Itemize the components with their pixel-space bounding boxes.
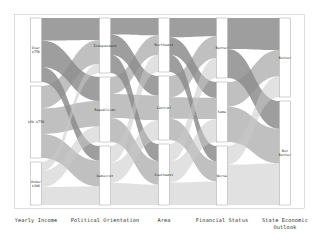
- flow-ribbon: [111, 183, 159, 205]
- category-node-label: $75K: [32, 50, 40, 54]
- category-node-label: Democrat: [97, 174, 114, 178]
- axis-label: Yearly Income: [15, 217, 58, 224]
- flow-ribbon: [170, 18, 217, 37]
- parallel-sets-chart: Over$75K$30-$75KUnder$30KIndependentRepu…: [0, 0, 319, 240]
- flow-ribbon: [228, 18, 280, 50]
- axis-label: Outlook: [274, 224, 298, 230]
- axis-label: Area: [157, 217, 170, 223]
- category-node-label: Better: [216, 46, 229, 50]
- category-node-label: Better: [279, 153, 292, 157]
- category-node-label: Republican: [95, 108, 116, 112]
- axis-label: State Economic: [262, 217, 308, 223]
- category-node-label: Worse: [217, 174, 227, 178]
- flow-ribbon: [42, 187, 100, 205]
- flow-ribbon: [111, 18, 159, 35]
- category-node-label: Central: [157, 106, 172, 110]
- category-node-label: Independent: [94, 44, 117, 48]
- flow-ribbon: [228, 163, 280, 205]
- flow-ribbon: [42, 18, 100, 41]
- flow-ribbon: [170, 181, 217, 205]
- category-node-label: Southeast: [155, 173, 174, 177]
- category-node-label: Same: [218, 110, 226, 114]
- category-node-label: $30-$75K: [28, 120, 45, 124]
- axis-label: Financial Status: [196, 217, 248, 223]
- category-node-label: Better: [279, 56, 292, 60]
- axis-label-layer: Yearly IncomePolitical OrientationAreaFi…: [15, 217, 308, 230]
- parallel-sets-svg: Over$75K$30-$75KUnder$30KIndependentRepu…: [0, 0, 319, 240]
- category-node-label: $30K: [32, 184, 40, 188]
- category-node-label: Northeast: [155, 43, 174, 47]
- axis-label: Political Orientation: [71, 217, 140, 223]
